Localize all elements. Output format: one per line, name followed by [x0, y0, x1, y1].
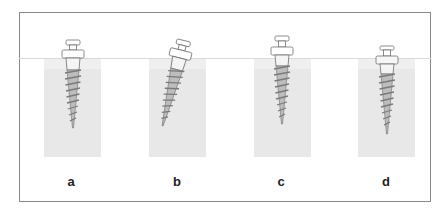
- panel-label-d: d: [376, 174, 396, 189]
